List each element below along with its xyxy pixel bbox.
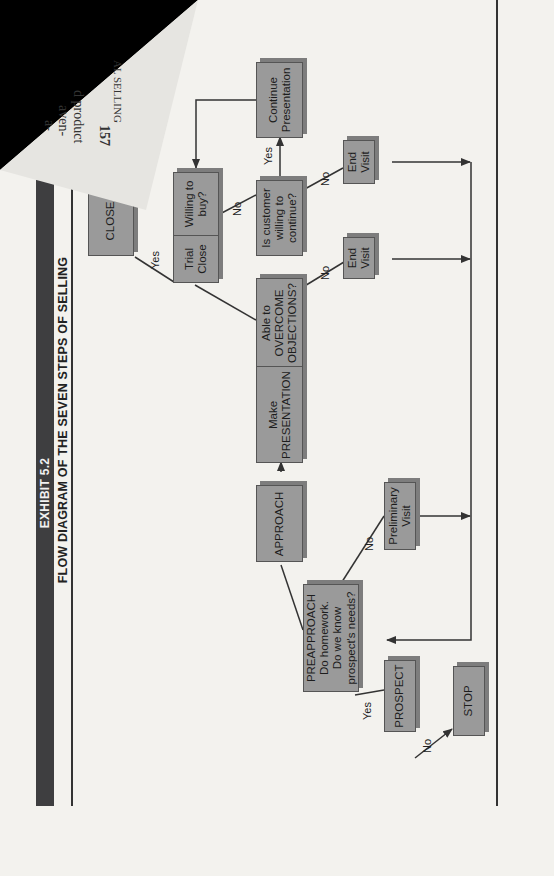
page: EXHIBIT 5.2 FLOW DIAGRAM OF THE SEVEN ST… [0,0,554,876]
folded-text-1: AL SELLING [112,60,124,123]
folded-page-number: 157 [96,125,112,146]
folded-text-3: aven- [55,105,71,136]
folded-text-2: d product [70,90,86,143]
folded-text-4: a- [41,120,57,131]
